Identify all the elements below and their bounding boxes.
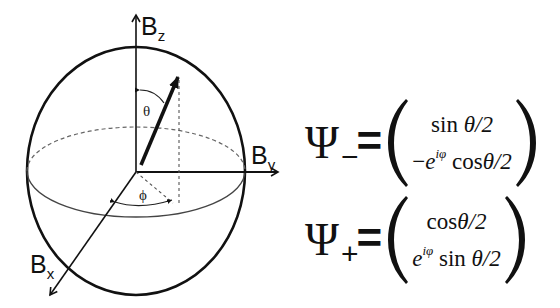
psi-symbol: Ψ	[305, 217, 339, 263]
theta-arc	[140, 90, 164, 103]
left-paren-icon	[384, 97, 410, 189]
right-paren-icon	[514, 97, 540, 189]
spinor-row-2: eiφ sin θ/2	[412, 237, 501, 274]
theta-label: θ	[143, 103, 150, 119]
equals-sign: =	[356, 213, 382, 263]
bloch-sphere-diagram: θ ϕ Bz By Bx	[0, 0, 300, 308]
spinor-row-1: sin θ/2	[431, 109, 493, 140]
z-axis-label: Bz	[141, 12, 165, 44]
equation-psi-minus: Ψ − = sin θ/2 −eiφ cosθ/2	[305, 95, 540, 190]
left-paren-icon	[384, 194, 410, 286]
spinor-row-2: −eiφ cosθ/2	[412, 140, 512, 177]
spinor-vector-plus: cosθ/2 eiφ sin θ/2	[410, 206, 503, 274]
equals-sign: =	[356, 116, 382, 166]
right-paren-icon	[503, 194, 529, 286]
equator-front	[27, 171, 245, 217]
equation-psi-plus: Ψ + = cosθ/2 eiφ sin θ/2	[305, 192, 529, 287]
y-axis-label: By	[251, 141, 276, 173]
psi-symbol: Ψ	[305, 120, 339, 166]
spinor-row-1: cosθ/2	[427, 206, 487, 237]
x-axis	[50, 172, 136, 295]
phi-label: ϕ	[139, 187, 147, 203]
spinor-vector-minus: sin θ/2 −eiφ cosθ/2	[410, 109, 514, 177]
x-axis-label: Bx	[30, 250, 55, 282]
